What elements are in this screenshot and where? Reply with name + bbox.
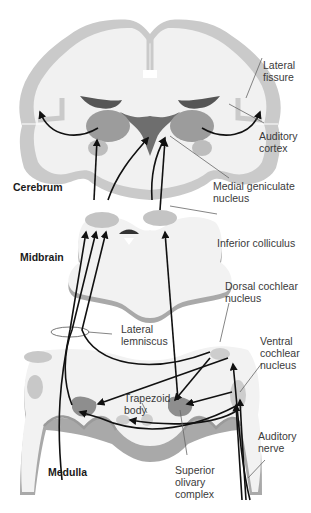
white-matter [34, 28, 267, 190]
inferior-colliculus-left [85, 212, 119, 228]
label-lateral-lemniscus: Lateral lemniscus [121, 323, 168, 347]
label-lateral-fissure: Lateral fissure [263, 59, 295, 83]
cerebrum-section [19, 20, 280, 200]
region-cerebrum: Cerebrum [13, 181, 63, 193]
label-superior-olivary: Superior olivary complex [175, 464, 215, 500]
region-medulla: Medulla [48, 466, 87, 478]
label-dorsal-cochlear: Dorsal cochlear nucleus [225, 280, 298, 304]
inferior-colliculus-right [143, 210, 177, 226]
medial-geniculate-right [170, 110, 214, 142]
medial-geniculate-left [86, 110, 130, 142]
midbrain-section [68, 210, 231, 323]
label-ventral-cochlear: Ventral cochlear nucleus [260, 335, 300, 371]
region-midbrain: Midbrain [20, 251, 64, 263]
trapezoid-body-nucleus-left [116, 415, 130, 425]
midbrain-body [68, 217, 231, 318]
label-trapezoid-body: Trapezoid body [124, 392, 170, 416]
label-medial-geniculate: Medial geniculate nucleus [213, 180, 295, 204]
label-auditory-nerve: Auditory nerve [258, 430, 297, 454]
label-inferior-colliculus: Inferior colliculus [217, 237, 295, 249]
label-auditory-cortex: Auditory cortex [259, 130, 298, 154]
